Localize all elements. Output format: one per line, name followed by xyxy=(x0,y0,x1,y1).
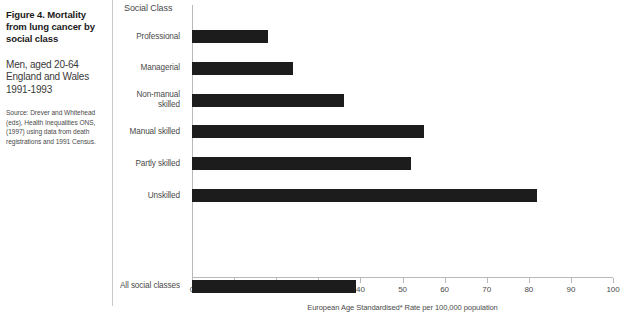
bar xyxy=(192,157,411,170)
category-label: Non-manual skilled xyxy=(88,90,180,110)
figure-4-lung-cancer-mortality: Figure 4. Mortality from lung cancer by … xyxy=(0,0,627,321)
value-axis-tick xyxy=(613,278,614,283)
value-axis-tick xyxy=(360,278,361,283)
bar-row: Managerial xyxy=(192,62,293,75)
value-axis-tick-label: 90 xyxy=(567,285,576,294)
value-axis-tick-label: 70 xyxy=(482,285,491,294)
category-label: Professional xyxy=(88,32,180,42)
value-axis-tick-label: 80 xyxy=(524,285,533,294)
value-axis-tick-label: 40 xyxy=(356,285,365,294)
bar xyxy=(192,125,424,138)
category-label: Partly skilled xyxy=(88,159,180,169)
value-axis-tick xyxy=(529,278,530,283)
category-label: Unskilled xyxy=(88,191,180,201)
plot-area xyxy=(192,5,613,277)
bar xyxy=(192,94,344,107)
bar xyxy=(192,280,356,293)
bar-chart: Social Class 0102030405060708090100 Prof… xyxy=(112,0,627,321)
value-axis-tick-label: 100 xyxy=(606,285,619,294)
bar-row: Partly skilled xyxy=(192,157,411,170)
category-label: All social classes xyxy=(88,281,180,291)
category-label: Managerial xyxy=(88,63,180,73)
bar xyxy=(192,30,268,43)
value-axis-tick-label: 60 xyxy=(440,285,449,294)
value-axis-tick-label: 50 xyxy=(398,285,407,294)
category-label: Manual skilled xyxy=(88,127,180,137)
bar-row: All social classes xyxy=(192,280,356,293)
bar xyxy=(192,62,293,75)
value-axis-tick xyxy=(403,278,404,283)
value-axis-tick xyxy=(445,278,446,283)
bar-row: Unskilled xyxy=(192,189,537,202)
bar xyxy=(192,189,537,202)
bar-row: Non-manual skilled xyxy=(192,94,344,107)
value-axis-tick xyxy=(487,278,488,283)
value-axis-tick xyxy=(571,278,572,283)
bar-row: Professional xyxy=(192,30,268,43)
bar-row: Manual skilled xyxy=(192,125,424,138)
category-axis-title: Social Class xyxy=(124,3,172,13)
value-axis-label: European Age Standardised* Rate per 100,… xyxy=(192,303,613,312)
